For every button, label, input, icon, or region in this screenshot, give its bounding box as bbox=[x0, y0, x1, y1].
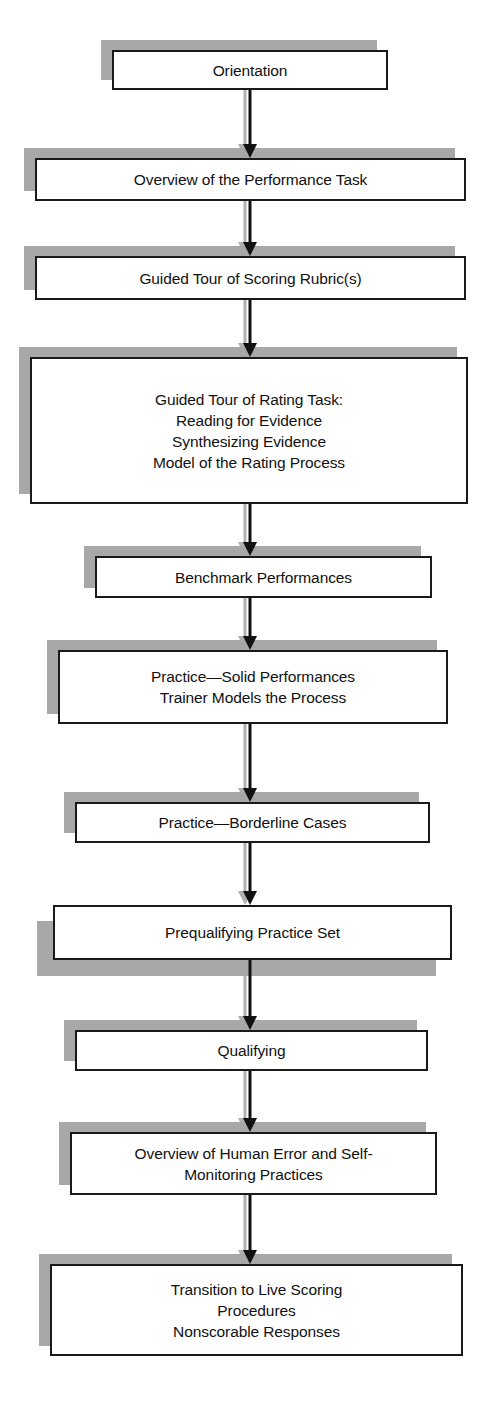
flow-node-label: Orientation bbox=[209, 60, 292, 81]
flow-node-label: Guided Tour of Scoring Rubric(s) bbox=[135, 268, 365, 289]
flowchart-canvas: OrientationOverview of the Performance T… bbox=[0, 0, 490, 1403]
flow-connector-benchmark-performances-to-practice-solid-performances bbox=[243, 598, 257, 650]
flow-node-practice-borderline-cases[interactable]: Practice—Borderline Cases bbox=[75, 802, 430, 843]
flow-node-overview-performance-task[interactable]: Overview of the Performance Task bbox=[35, 158, 466, 201]
flow-node-practice-solid-performances[interactable]: Practice—Solid Performances Trainer Mode… bbox=[58, 650, 448, 724]
flow-node-label: Practice—Solid Performances Trainer Mode… bbox=[147, 666, 359, 708]
flow-node-label: Prequalifying Practice Set bbox=[161, 922, 344, 943]
flow-node-label: Benchmark Performances bbox=[171, 567, 356, 588]
flow-node-prequalifying-practice-set[interactable]: Prequalifying Practice Set bbox=[53, 905, 452, 960]
flow-node-label: Transition to Live Scoring Procedures No… bbox=[167, 1279, 347, 1342]
flow-connector-qualifying-to-overview-human-error bbox=[243, 1071, 257, 1132]
flow-node-guided-tour-rating-task[interactable]: Guided Tour of Rating Task: Reading for … bbox=[30, 357, 468, 504]
flow-connector-guided-tour-scoring-rubrics-to-guided-tour-rating-task bbox=[243, 300, 257, 357]
flow-connector-overview-performance-task-to-guided-tour-scoring-rubrics bbox=[243, 201, 257, 256]
flow-node-label: Practice—Borderline Cases bbox=[155, 812, 351, 833]
flow-node-label: Overview of the Performance Task bbox=[130, 169, 371, 190]
flow-node-label: Overview of Human Error and Self- Monito… bbox=[131, 1143, 377, 1185]
flow-connector-guided-tour-rating-task-to-benchmark-performances bbox=[243, 504, 257, 556]
flow-node-orientation[interactable]: Orientation bbox=[112, 50, 388, 90]
flow-node-guided-tour-scoring-rubrics[interactable]: Guided Tour of Scoring Rubric(s) bbox=[35, 256, 466, 300]
flow-node-transition-live-scoring[interactable]: Transition to Live Scoring Procedures No… bbox=[50, 1264, 463, 1356]
flow-node-qualifying[interactable]: Qualifying bbox=[75, 1030, 428, 1071]
flow-connector-orientation-to-overview-performance-task bbox=[243, 90, 257, 158]
flow-connector-practice-solid-performances-to-practice-borderline-cases bbox=[243, 724, 257, 802]
flow-connector-overview-human-error-to-transition-live-scoring bbox=[243, 1195, 257, 1264]
flow-node-label: Qualifying bbox=[214, 1040, 290, 1061]
flow-node-overview-human-error[interactable]: Overview of Human Error and Self- Monito… bbox=[70, 1132, 437, 1195]
flow-connector-prequalifying-practice-set-to-qualifying bbox=[243, 960, 257, 1030]
flow-node-benchmark-performances[interactable]: Benchmark Performances bbox=[95, 556, 432, 598]
flow-node-label: Guided Tour of Rating Task: Reading for … bbox=[149, 389, 349, 473]
flow-connector-practice-borderline-cases-to-prequalifying-practice-set bbox=[243, 843, 257, 905]
